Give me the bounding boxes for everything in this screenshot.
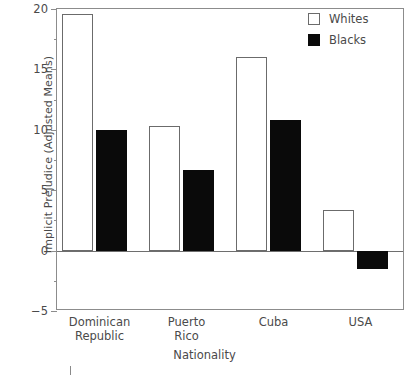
plot-area: 20151050−5 bbox=[56, 8, 404, 310]
x-tick-label-line: Republic bbox=[56, 329, 143, 343]
x-tick-label: Cuba bbox=[230, 315, 317, 329]
y-tick-mark bbox=[51, 69, 57, 70]
y-tick-mark-minor bbox=[54, 220, 58, 221]
bar-blacks-usa bbox=[357, 251, 388, 269]
y-tick-mark bbox=[51, 9, 57, 10]
bar-whites-dominican-republic bbox=[62, 14, 93, 251]
legend-label-whites: Whites bbox=[329, 12, 368, 26]
bar-chart-figure: Implicit Prejudice (Adjusted Means) 2015… bbox=[0, 0, 409, 380]
bar-whites-usa bbox=[323, 210, 354, 251]
x-tick-label: DominicanRepublic bbox=[56, 315, 143, 343]
x-tick-label-line: Puerto bbox=[143, 315, 230, 329]
y-tick-label: 20 bbox=[33, 2, 48, 16]
x-tick-label-line: Dominican bbox=[56, 315, 143, 329]
legend-item-whites: Whites bbox=[308, 10, 368, 27]
chart-legend: Whites Blacks bbox=[308, 10, 368, 52]
x-tick-label-line: Cuba bbox=[230, 315, 317, 329]
bar-whites-puerto-rico bbox=[149, 126, 180, 250]
legend-swatch-white-square bbox=[308, 13, 320, 25]
y-tick-label: 5 bbox=[41, 183, 48, 197]
x-tick-label-line: Rico bbox=[143, 329, 230, 343]
y-tick-mark bbox=[51, 130, 57, 131]
y-tick-mark bbox=[51, 311, 57, 312]
bar-blacks-puerto-rico bbox=[183, 170, 214, 251]
y-tick-mark bbox=[51, 190, 57, 191]
legend-swatch-black-square bbox=[308, 34, 320, 46]
y-tick-label: −5 bbox=[31, 304, 48, 318]
x-axis-title: Nationality bbox=[0, 348, 409, 362]
x-tick-label: PuertoRico bbox=[143, 315, 230, 343]
bar-whites-cuba bbox=[236, 57, 267, 250]
x-tick-label-line: USA bbox=[317, 315, 404, 329]
y-tick-mark-minor bbox=[54, 100, 58, 101]
zero-baseline bbox=[57, 251, 403, 252]
y-tick-label: 10 bbox=[33, 123, 48, 137]
y-tick-mark-minor bbox=[54, 160, 58, 161]
y-tick-label: 15 bbox=[33, 62, 48, 76]
legend-item-blacks: Blacks bbox=[308, 31, 368, 48]
x-tick-label: USA bbox=[317, 315, 404, 329]
bar-blacks-dominican-republic bbox=[96, 130, 127, 251]
y-tick-mark-minor bbox=[54, 39, 58, 40]
legend-label-blacks: Blacks bbox=[329, 33, 366, 47]
y-tick-mark-minor bbox=[54, 281, 58, 282]
bar-blacks-cuba bbox=[270, 120, 301, 250]
scan-artifact-mark bbox=[70, 366, 71, 375]
y-tick-label: 0 bbox=[41, 244, 48, 258]
